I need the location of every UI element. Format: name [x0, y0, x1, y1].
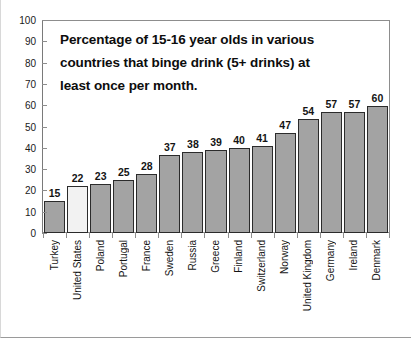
x-axis-tick-mark: [366, 233, 367, 238]
y-axis-tick-mark: [42, 20, 47, 21]
bar-value-label: 15: [49, 187, 61, 199]
bar-value-label: 28: [141, 160, 153, 172]
y-axis-tick-mark: [42, 148, 47, 149]
bar-portugal[interactable]: [113, 180, 134, 233]
y-axis-tick-label: 30: [0, 164, 36, 175]
bar-value-label: 57: [349, 98, 361, 110]
y-axis-tick-mark: [42, 169, 47, 170]
bar-value-label: 25: [118, 166, 130, 178]
x-axis-tick-mark: [320, 233, 321, 238]
y-axis-tick-mark: [42, 105, 47, 106]
y-axis-tick-label: 50: [0, 121, 36, 132]
y-axis-tick-mark: [42, 84, 47, 85]
bar-turkey[interactable]: [44, 201, 65, 233]
x-axis-tick-mark: [204, 233, 205, 238]
x-axis-label-norway: Norway: [280, 240, 290, 274]
x-axis-tick-mark: [251, 233, 252, 238]
x-axis-label-greece: Greece: [211, 240, 221, 273]
bar-value-label: 40: [233, 134, 245, 146]
y-axis-tick-label: 0: [0, 228, 36, 239]
chart-title-line-1: Percentage of 15-16 year olds in various: [60, 28, 380, 51]
y-axis: 0102030405060708090100: [0, 20, 36, 233]
x-axis-tick-mark: [135, 233, 136, 238]
x-axis: TurkeyUnited StatesPolandPortugalFranceS…: [43, 240, 389, 336]
bar-value-label: 57: [325, 98, 337, 110]
bar-value-label: 47: [279, 119, 291, 131]
x-axis-tick-mark: [181, 233, 182, 238]
y-axis-tick-label: 10: [0, 206, 36, 217]
x-axis-label-ireland: Ireland: [349, 240, 359, 271]
bar-russia[interactable]: [182, 152, 203, 233]
y-axis-tick-mark: [42, 127, 47, 128]
x-axis-tick-mark: [158, 233, 159, 238]
x-axis-tick-mark: [343, 233, 344, 238]
bar-united-kingdom[interactable]: [298, 119, 319, 233]
x-axis-label-germany: Germany: [326, 240, 336, 281]
y-axis-tick-label: 80: [0, 57, 36, 68]
x-axis-label-finland: Finland: [234, 240, 244, 273]
bar-value-label: 37: [164, 141, 176, 153]
y-axis-tick-label: 90: [0, 36, 36, 47]
bar-value-label: 22: [72, 172, 84, 184]
x-axis-tick-mark: [228, 233, 229, 238]
x-axis-tick-mark: [43, 233, 44, 238]
y-axis-tick-label: 70: [0, 78, 36, 89]
bar-value-label: 23: [95, 170, 107, 182]
y-axis-tick-label: 100: [0, 15, 36, 26]
x-axis-tick-mark: [89, 233, 90, 238]
bar-denmark[interactable]: [367, 106, 388, 233]
x-axis-label-united-states: United States: [73, 240, 83, 300]
bar-value-label: 41: [256, 132, 268, 144]
bar-ireland[interactable]: [344, 112, 365, 233]
x-axis-tick-mark: [112, 233, 113, 238]
chart-screenshot: 0102030405060708090100 15222325283738394…: [0, 0, 411, 338]
bar-sweden[interactable]: [159, 155, 180, 233]
x-axis-label-portugal: Portugal: [119, 240, 129, 277]
bar-france[interactable]: [136, 174, 157, 233]
y-axis-tick-label: 60: [0, 100, 36, 111]
y-axis-tick-mark: [42, 212, 47, 213]
x-axis-tick-mark: [389, 233, 390, 238]
chart-title-line-3: least once per month.: [60, 74, 380, 97]
bar-finland[interactable]: [229, 148, 250, 233]
x-axis-label-denmark: Denmark: [372, 240, 382, 281]
y-axis-tick-mark: [42, 63, 47, 64]
y-axis-tick-label: 40: [0, 142, 36, 153]
bar-germany[interactable]: [321, 112, 342, 233]
x-axis-label-turkey: Turkey: [50, 240, 60, 270]
x-axis-label-sweden: Sweden: [165, 240, 175, 276]
x-axis-label-united-kingdom: United Kingdom: [303, 240, 313, 311]
chart-title-line-2: countries that binge drink (5+ drinks) a…: [60, 51, 380, 74]
bar-value-label: 39: [210, 136, 222, 148]
chart-title: Percentage of 15-16 year olds in various…: [60, 28, 380, 98]
x-axis-label-poland: Poland: [96, 240, 106, 271]
x-axis-label-france: France: [142, 240, 152, 271]
bar-united-states[interactable]: [67, 186, 88, 233]
x-axis-tick-mark: [66, 233, 67, 238]
y-axis-tick-mark: [42, 41, 47, 42]
x-axis-label-russia: Russia: [188, 240, 198, 271]
bar-value-label: 54: [302, 105, 314, 117]
bar-value-label: 38: [187, 138, 199, 150]
bar-poland[interactable]: [90, 184, 111, 233]
y-axis-tick-label: 20: [0, 185, 36, 196]
bar-norway[interactable]: [275, 133, 296, 233]
bar-switzerland[interactable]: [252, 146, 273, 233]
x-axis-tick-mark: [297, 233, 298, 238]
x-axis-label-switzerland: Switzerland: [257, 240, 267, 292]
y-axis-tick-mark: [42, 190, 47, 191]
x-axis-tick-mark: [274, 233, 275, 238]
bar-greece[interactable]: [205, 150, 226, 233]
